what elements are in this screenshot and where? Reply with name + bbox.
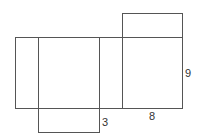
depth-label: 3 bbox=[102, 116, 108, 128]
prism-net-diagram: 9 8 3 bbox=[0, 0, 201, 134]
top-face bbox=[123, 14, 183, 38]
bottom-face bbox=[39, 109, 100, 133]
width-label: 8 bbox=[149, 110, 155, 122]
height-label: 9 bbox=[185, 67, 191, 79]
